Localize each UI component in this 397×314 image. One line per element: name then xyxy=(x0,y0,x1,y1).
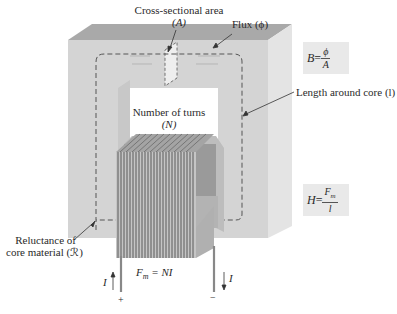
turns-text: Number of turns xyxy=(124,106,214,118)
eq-B-equals: = xyxy=(314,51,321,66)
eq-H-equals: = xyxy=(316,193,323,208)
turns-label: Number of turns (N) xyxy=(124,106,214,130)
cross-section-label: Cross-sectional area (A) xyxy=(124,4,234,28)
flux-label: Flux (ϕ) xyxy=(232,18,268,30)
eq-H-fraction: Fm l xyxy=(322,187,337,214)
eq-H-lhs: H xyxy=(307,193,316,208)
eq-B-den: A xyxy=(321,59,330,70)
eq-B-lhs: B xyxy=(307,51,314,66)
eq-B-fraction: ϕ A xyxy=(321,47,330,70)
cross-section-symbol: (A) xyxy=(124,16,234,28)
eq-H-num: Fm xyxy=(322,187,337,203)
minus-terminal: − xyxy=(210,292,216,304)
reluctance-label-2: core material (ℛ) xyxy=(6,246,83,258)
reluctance-label: Reluctance of xyxy=(8,234,76,246)
eq-H-den: l xyxy=(322,203,337,214)
mmf-rhs: = NI xyxy=(149,266,173,278)
equation-B-box: B = ϕ A xyxy=(303,42,349,74)
equation-H-box: H = Fm l xyxy=(303,184,349,216)
current-right-label: I xyxy=(229,272,233,284)
core-side-face xyxy=(268,24,292,238)
reluctance-text-1: Reluctance of xyxy=(8,234,76,246)
plus-terminal: + xyxy=(118,294,124,306)
mmf-lhs: F xyxy=(136,266,143,278)
turns-symbol: (N) xyxy=(124,118,214,130)
current-left-label: I xyxy=(103,276,107,288)
eq-H-num-sub: m xyxy=(331,192,336,200)
eq-B-num: ϕ xyxy=(321,47,330,59)
mmf-equation: Fm = NI xyxy=(136,266,172,283)
cross-section-text: Cross-sectional area xyxy=(124,4,234,16)
length-label: Length around core (l) xyxy=(296,86,395,98)
